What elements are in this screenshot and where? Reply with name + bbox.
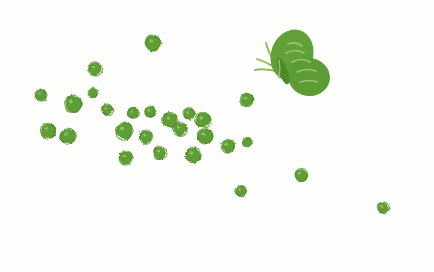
illustration-canvas: [0, 0, 434, 272]
artwork-svg: [0, 0, 434, 272]
background: [0, 0, 434, 272]
